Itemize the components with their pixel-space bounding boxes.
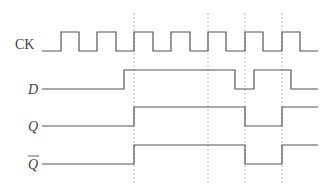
signal-q: Q (28, 107, 318, 134)
signal-ck: CK (15, 32, 318, 52)
signal-label-ck: CK (15, 37, 34, 52)
signal-label-q: Q (28, 119, 38, 134)
signal-label-q-bar: Q (28, 157, 38, 172)
signal-d: D (27, 70, 318, 97)
signal-q-bar: Q (28, 145, 318, 172)
waveform-q-bar (42, 145, 318, 164)
signal-label-d: D (27, 82, 38, 97)
waveform-ck (42, 32, 318, 51)
timing-diagram: CK D Q Q (0, 0, 332, 192)
waveform-q (42, 107, 318, 126)
waveform-d (42, 70, 318, 89)
